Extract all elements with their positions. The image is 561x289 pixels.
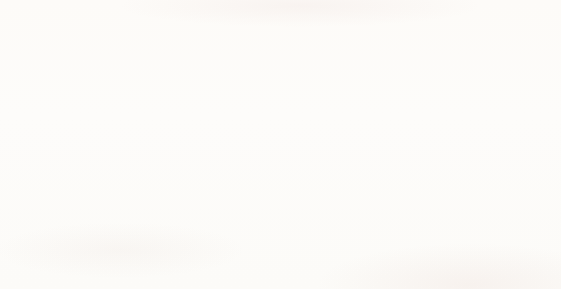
bar-value-label: 84 — [309, 26, 347, 45]
category-label: Myanmar — [73, 183, 130, 202]
chart-row: Lesotho57 — [0, 116, 561, 135]
category-label: Cambodia — [67, 48, 130, 67]
chart-row: Tuvalu32 — [0, 229, 561, 248]
category-label: Central African Rep. — [7, 138, 130, 157]
chart-row: Myanmar40 — [0, 183, 561, 202]
category-label: Liberia — [89, 161, 130, 180]
category-label: Niger — [97, 206, 130, 225]
bar-value-label: 68 — [309, 71, 347, 90]
chart-row: Haiti84 — [0, 26, 561, 45]
category-label: Nepal — [94, 71, 130, 90]
bar-value-label: 50 — [309, 138, 347, 157]
bar-value-label: 46 — [309, 161, 347, 180]
bar-value-label: 40 — [309, 183, 347, 202]
bar-value-label: 57 — [309, 116, 347, 135]
chart-row: Cambodia77 — [0, 48, 561, 67]
chart-row: Bangladesh95 — [0, 3, 561, 22]
chart-row: Bhutan59 — [0, 93, 561, 112]
chart-row: Nepal68 — [0, 71, 561, 90]
category-label: Bangladesh — [57, 3, 130, 22]
bar-value-label: 33 — [309, 206, 347, 225]
bar-value-label: 59 — [309, 93, 347, 112]
chart-row: Niger33 — [0, 206, 561, 225]
category-label: Haiti — [103, 26, 130, 45]
bar-value-label: 95 — [309, 3, 347, 22]
category-label: Comoras — [74, 251, 130, 270]
funnel-bar-chart: Bangladesh95Haiti84Cambodia77Nepal68Bhut… — [0, 0, 561, 289]
chart-row: Central African Rep.50 — [0, 138, 561, 157]
chart-row: Liberia46 — [0, 161, 561, 180]
category-label: Bhutan — [86, 93, 130, 112]
category-label: Lesotho — [81, 116, 130, 135]
chart-row: Comoras31 — [0, 251, 561, 270]
bar-value-label: 32 — [309, 229, 347, 248]
category-label: Tuvalu — [89, 229, 130, 248]
bar-value-label: 77 — [309, 48, 347, 67]
bar-value-label: 31 — [309, 251, 347, 270]
